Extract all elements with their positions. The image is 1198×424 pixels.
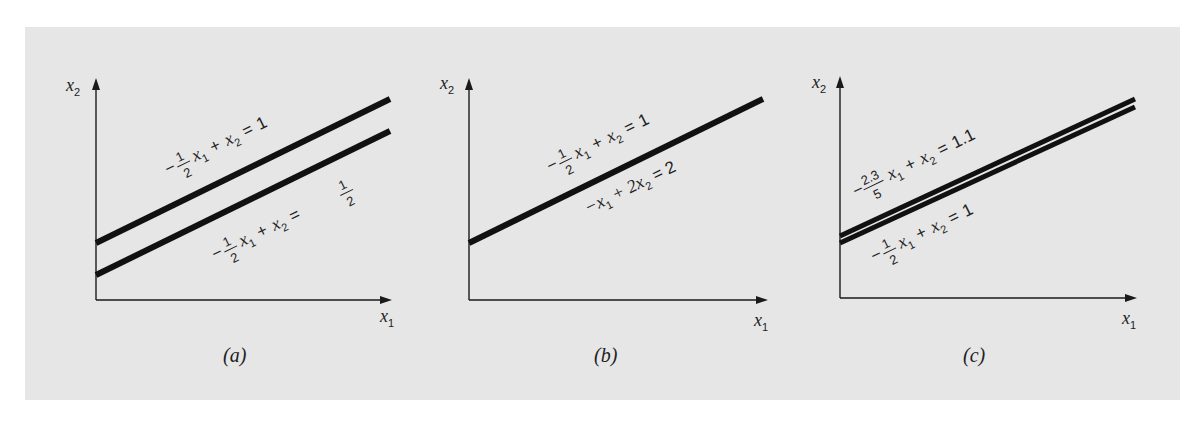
- x-axis-arrow-icon: [756, 296, 768, 304]
- caption-b: (b): [594, 344, 618, 367]
- line-b: [840, 107, 1135, 243]
- line-upper: [96, 99, 390, 243]
- svg-text:−: −: [543, 154, 560, 175]
- svg-text:2: 2: [228, 249, 241, 266]
- x-axis-label: x1: [1121, 308, 1136, 331]
- svg-text:1: 1: [879, 235, 892, 252]
- y-axis-arrow-icon: [465, 78, 473, 90]
- y-axis-arrow-icon: [836, 76, 844, 88]
- y-axis-label: x2: [65, 75, 80, 98]
- y-axis-label: x2: [439, 73, 454, 96]
- y-axis-label: x2: [811, 72, 826, 95]
- svg-text:2: 2: [181, 164, 194, 181]
- y-axis-arrow-icon: [92, 78, 100, 90]
- svg-text:2.3: 2.3: [858, 167, 881, 188]
- svg-text:−: −: [867, 244, 884, 265]
- svg-text:x1+x2=: x1+x2=: [234, 203, 304, 253]
- x-axis-label: x1: [379, 306, 394, 329]
- svg-text:2: 2: [887, 251, 900, 268]
- x-axis-arrow-icon: [380, 296, 392, 304]
- svg-text:−: −: [161, 157, 178, 178]
- linear-systems-figure: x2 x1 − 1 2 x1+x2=1 − 1 2 x1+x2= 1 2 (a): [0, 0, 1198, 424]
- equation-upper: − 1 2 x1+x2=1: [160, 109, 275, 188]
- equation-lower: − 1 2 x1+x2=1: [866, 196, 981, 275]
- line-lower: [96, 131, 390, 275]
- caption-a: (a): [223, 344, 247, 367]
- panel-c: x2 x1 − 2.3 5 x1+x2=1.1 − 1 2 x1+x2=1 (c…: [811, 72, 1137, 367]
- svg-text:2: 2: [344, 193, 357, 210]
- panel-a: x2 x1 − 1 2 x1+x2=1 − 1 2 x1+x2= 1 2 (a): [65, 75, 394, 367]
- svg-text:1: 1: [336, 177, 349, 194]
- x-axis-arrow-icon: [1125, 294, 1137, 302]
- svg-text:−: −: [208, 242, 225, 263]
- svg-text:1: 1: [220, 233, 233, 250]
- equation-upper: − 1 2 x1+x2=1: [542, 106, 657, 185]
- svg-text:1: 1: [173, 148, 186, 165]
- x-axis-label: x1: [753, 310, 768, 333]
- svg-text:1: 1: [555, 145, 568, 162]
- svg-text:5: 5: [871, 185, 884, 202]
- panel-b: x2 x1 − 1 2 x1+x2=1 −x1+ 2x2= 2 (b): [439, 73, 768, 367]
- equation-lower: − 1 2 x1+x2= 1 2: [207, 175, 361, 273]
- equation-upper: − 2.3 5 x1+x2=1.1: [848, 121, 983, 209]
- line-coincident: [469, 99, 763, 243]
- svg-text:2: 2: [563, 161, 576, 178]
- caption-c: (c): [963, 344, 986, 367]
